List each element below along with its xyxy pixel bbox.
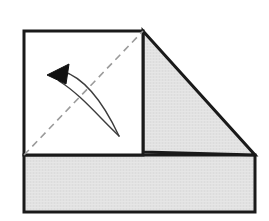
base-strip-shape [24,155,255,212]
folded-flap-shape [143,31,255,155]
origami-diagram-svg [0,0,269,221]
origami-fold-figure: Paper folding diagram [0,0,269,221]
